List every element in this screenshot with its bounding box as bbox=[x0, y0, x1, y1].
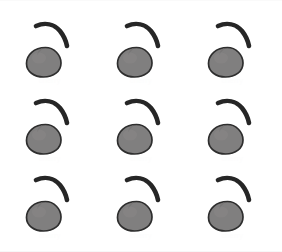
cherry-cell[interactable]: cherry bbox=[187, 164, 278, 241]
cherry-cell-label: cherry bbox=[187, 232, 278, 239]
cherry-icon bbox=[204, 95, 260, 155]
cherry-cell[interactable]: cherry bbox=[95, 164, 186, 241]
cherry-cell[interactable]: cherry bbox=[187, 86, 278, 163]
cherry-cell[interactable]: cherry bbox=[187, 9, 278, 86]
cherry-icon bbox=[204, 18, 260, 78]
cherry-cell-label: cherry bbox=[95, 232, 186, 239]
cherry-icon bbox=[113, 18, 169, 78]
cherry-cell-label: cherry bbox=[95, 77, 186, 84]
cherry-icon bbox=[22, 18, 78, 78]
cherry-cell-label: cherry bbox=[187, 155, 278, 162]
cherry-cell-label: cherry bbox=[187, 77, 278, 84]
cherry-grid: cherry cherry cherry bbox=[0, 1, 282, 252]
cherry-icon bbox=[22, 172, 78, 232]
cherry-cell-label: cherry bbox=[4, 155, 95, 162]
cherry-cell[interactable]: cherry bbox=[4, 164, 95, 241]
cherry-icon bbox=[113, 172, 169, 232]
cherry-cell[interactable]: cherry bbox=[95, 86, 186, 163]
cherry-icon bbox=[113, 95, 169, 155]
cherry-cell[interactable]: cherry bbox=[4, 86, 95, 163]
cherry-cell-label: cherry bbox=[4, 232, 95, 239]
cherry-cell-label: cherry bbox=[95, 155, 186, 162]
cherry-cell-label: cherry bbox=[4, 77, 95, 84]
cherry-cell[interactable]: cherry bbox=[4, 9, 95, 86]
cherry-grid-canvas: cherry cherry cherry bbox=[0, 0, 282, 252]
cherry-icon bbox=[204, 172, 260, 232]
cherry-cell[interactable]: cherry bbox=[95, 9, 186, 86]
cherry-icon bbox=[22, 95, 78, 155]
